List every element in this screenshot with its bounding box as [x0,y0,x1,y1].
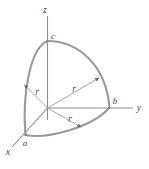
point-c-label: c [51,31,55,41]
spherical-octant-figure: z y x c b a r r r [0,0,149,169]
radius-lower-right-line [48,108,82,127]
radius-left-label: r [35,87,39,97]
point-b-label: b [113,96,118,106]
x-axis-label: x [5,146,11,157]
vertex-b-marker [109,107,111,109]
radius-upper-right-label: r [72,84,76,94]
point-a-label: a [23,138,28,148]
vertex-a-marker [25,134,27,136]
y-axis-label: y [136,102,142,113]
radius-lower-right-label: r [68,114,72,124]
arc-c-to-b [48,41,110,108]
vertex-c-marker [47,40,49,42]
figure-canvas: z y x c b a r r r [0,0,149,169]
radius-lines [25,78,100,127]
x-axis-line [12,108,48,147]
z-axis-label: z [42,4,47,15]
axis-lines [12,16,133,147]
